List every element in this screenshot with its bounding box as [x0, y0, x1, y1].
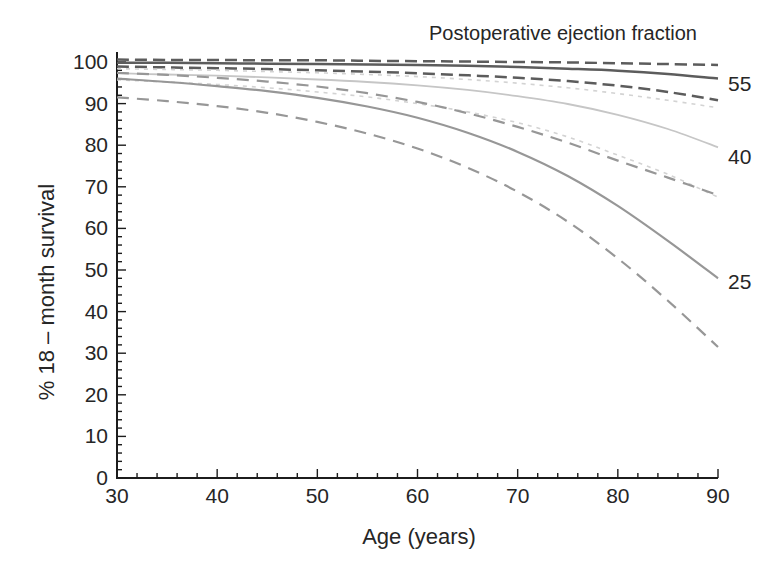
y-tick-label: 100: [73, 50, 108, 73]
curve-ef25-mean: [117, 79, 718, 279]
chart-title: Postoperative ejection fraction: [429, 22, 697, 45]
survival-chart-canvas: 3040506070809001020304050607080901005540…: [0, 0, 783, 570]
y-tick-label: 30: [85, 341, 108, 364]
y-tick-label: 60: [85, 216, 108, 239]
x-tick-label: 40: [205, 484, 228, 507]
survival-chart-figure: 3040506070809001020304050607080901005540…: [0, 0, 783, 570]
y-tick-label: 0: [96, 466, 108, 489]
curve-label-40: 40: [728, 145, 751, 168]
curve-label-55: 55: [728, 72, 751, 95]
y-tick-label: 80: [85, 133, 108, 156]
y-tick-label: 40: [85, 300, 108, 323]
x-tick-label: 60: [406, 484, 429, 507]
curve-ef25-upper: [117, 73, 718, 195]
y-tick-label: 10: [85, 424, 108, 447]
x-tick-label: 30: [105, 484, 128, 507]
x-tick-label: 50: [306, 484, 329, 507]
y-tick-label: 20: [85, 383, 108, 406]
y-tick-label: 70: [85, 175, 108, 198]
y-tick-label: 50: [85, 258, 108, 281]
x-tick-label: 80: [606, 484, 629, 507]
curve-ef25-lower: [117, 97, 718, 347]
x-tick-label: 70: [506, 484, 529, 507]
y-tick-label: 90: [85, 92, 108, 115]
curve-ef40-lower: [117, 80, 718, 197]
x-tick-label: 90: [706, 484, 729, 507]
x-axis-label: Age (years): [362, 524, 476, 550]
axis-lines: [117, 52, 718, 478]
curve-label-25: 25: [728, 270, 751, 293]
y-axis-label: % 18 – month survival: [34, 184, 60, 400]
